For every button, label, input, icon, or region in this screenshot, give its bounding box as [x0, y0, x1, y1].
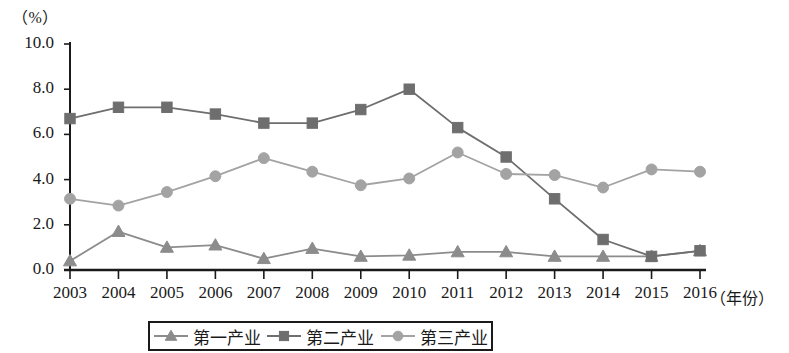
legend-item[interactable]: 第二产业: [266, 324, 374, 349]
legend-label: 第一产业: [193, 324, 261, 349]
series-marker-circle: [65, 193, 76, 204]
series-marker-circle: [161, 187, 172, 198]
series-marker-square: [404, 84, 414, 94]
legend-label: 第二产业: [306, 324, 374, 349]
series-marker-square: [356, 104, 366, 114]
series-marker-circle: [307, 166, 318, 177]
series-marker-circle: [404, 173, 415, 184]
legend-marker-circle-icon: [380, 328, 416, 344]
series-marker-circle: [695, 166, 706, 177]
series-marker-circle: [501, 168, 512, 179]
series-marker-circle: [258, 153, 269, 164]
chart-legend: 第一产业第二产业第三产业: [148, 321, 493, 351]
series-marker-square: [501, 152, 511, 162]
series-marker-square: [452, 122, 462, 132]
series-2: [65, 84, 705, 262]
series-marker-square: [280, 331, 289, 340]
series-3: [65, 147, 706, 211]
series-line: [70, 89, 700, 256]
series-marker-triangle: [64, 254, 77, 265]
series-marker-square: [65, 113, 75, 123]
series-marker-triangle: [306, 242, 319, 253]
series-line: [70, 152, 700, 205]
series-marker-circle: [549, 170, 560, 181]
legend-item[interactable]: 第一产业: [153, 324, 261, 349]
series-marker-square: [162, 102, 172, 112]
series-marker-circle: [598, 182, 609, 193]
line-chart: （%） 0.02.04.06.08.010.0 2003200420052006…: [0, 0, 789, 353]
series-marker-circle: [355, 180, 366, 191]
series-marker-square: [598, 234, 608, 244]
series-marker-square: [307, 118, 317, 128]
series-marker-circle: [452, 147, 463, 158]
series-marker-square: [259, 118, 269, 128]
legend-item[interactable]: 第三产业: [380, 324, 488, 349]
plot-area: [0, 0, 789, 353]
series-marker-triangle: [112, 225, 125, 236]
legend-label: 第三产业: [420, 324, 488, 349]
legend-marker-triangle-icon: [153, 328, 189, 344]
series-marker-square: [695, 246, 705, 256]
series-marker-circle: [646, 164, 657, 175]
series-marker-triangle: [209, 239, 222, 250]
series-1: [64, 225, 707, 266]
series-marker-square: [210, 109, 220, 119]
legend-marker-square-icon: [266, 328, 302, 344]
series-marker-square: [549, 194, 559, 204]
series-marker-square: [113, 102, 123, 112]
series-marker-circle: [113, 200, 124, 211]
series-marker-circle: [210, 171, 221, 182]
series-marker-square: [646, 251, 656, 261]
series-marker-circle: [393, 331, 403, 341]
